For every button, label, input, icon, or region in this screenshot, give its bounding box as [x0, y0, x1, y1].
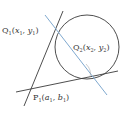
- chord-of-contact-line: [45, 15, 107, 95]
- geometry-diagram: Q1(x1, y1) Q2(x2, y2) P1(a1, b1): [0, 0, 128, 113]
- label-q2: Q2(x2, y2): [73, 43, 110, 53]
- label-q1: Q1(x1, y1): [2, 26, 39, 36]
- label-p1: P1(a1, b1): [33, 93, 69, 103]
